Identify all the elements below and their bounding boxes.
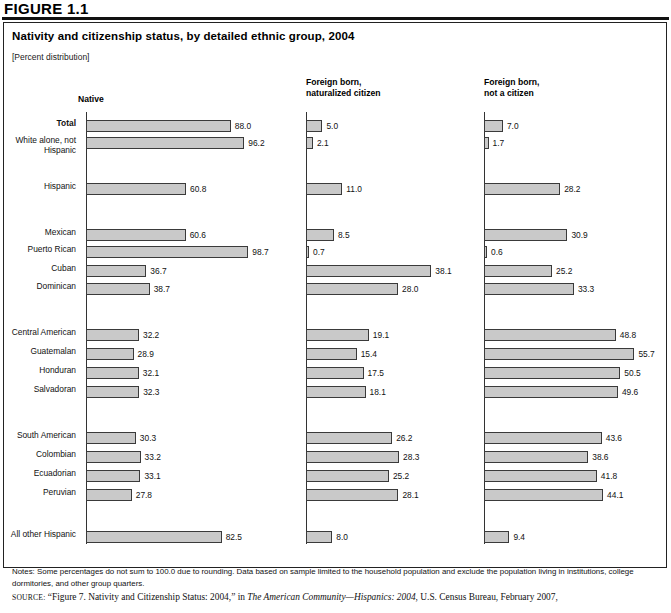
figure-tag: FIGURE 1.1 xyxy=(4,0,89,17)
chart-notes: Notes: Some percentages do not sum to 10… xyxy=(12,566,658,589)
column-header-native: Native xyxy=(78,94,104,105)
chart-title: Nativity and citizenship status, by deta… xyxy=(12,30,354,42)
source-italic-title: The American Community—Hispanics: 2004 xyxy=(247,592,415,602)
column-header-naturalized: Foreign born, naturalized citizen xyxy=(306,77,381,99)
source-tail: , U.S. Census Bureau, February 2007, xyxy=(416,592,558,602)
figure-rule xyxy=(2,17,669,20)
chart-subtitle: [Percent distribution] xyxy=(12,52,89,62)
source-label: SOURCE: xyxy=(12,593,45,602)
chart-source: SOURCE: “Figure 7. Nativity and Citizens… xyxy=(12,591,662,604)
source-quoted: “Figure 7. Nativity and Citizenship Stat… xyxy=(48,592,245,602)
column-header-noncitizen: Foreign born, not a citizen xyxy=(484,77,539,99)
